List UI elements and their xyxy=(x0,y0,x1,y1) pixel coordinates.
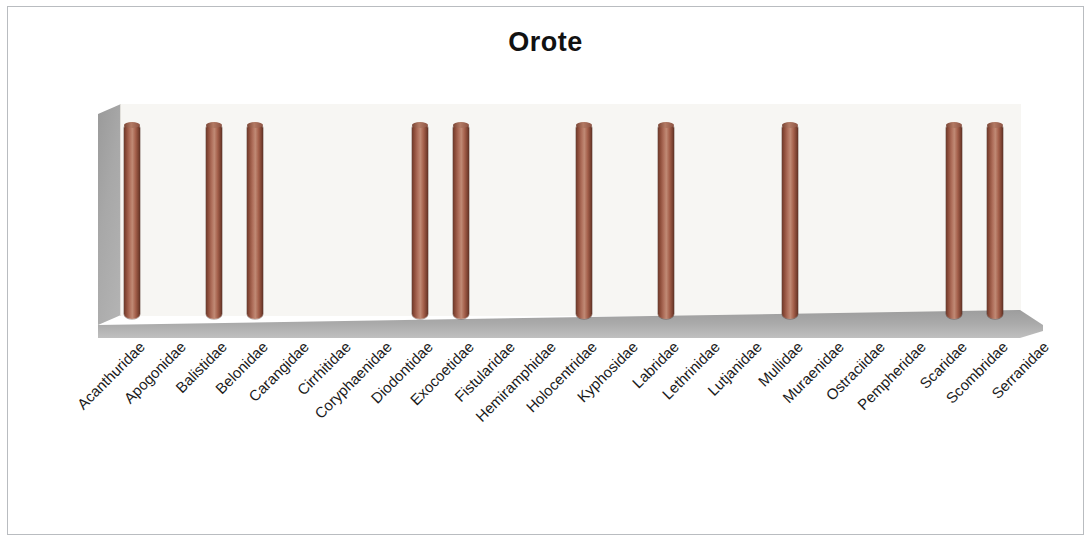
chart-page: Orote AcanthuridaeApogonidaeBalistidaeBe… xyxy=(0,0,1091,542)
bar xyxy=(576,123,592,319)
bar xyxy=(946,123,962,319)
bar xyxy=(124,123,140,319)
bar xyxy=(247,123,263,319)
bar xyxy=(453,123,469,319)
bar xyxy=(412,123,428,319)
bar xyxy=(658,123,674,319)
plot-area xyxy=(98,104,1043,340)
x-axis-labels: AcanthuridaeApogonidaeBalistidaeBelonida… xyxy=(98,338,1058,468)
bar-series xyxy=(98,104,1043,340)
bar xyxy=(782,123,798,319)
page-title: Orote xyxy=(0,27,1091,58)
bar xyxy=(206,123,222,319)
bar xyxy=(987,123,1003,319)
